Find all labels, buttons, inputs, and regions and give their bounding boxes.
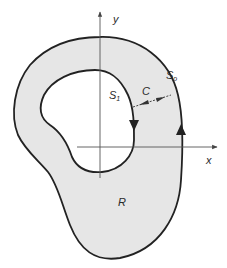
s1-label: S1 bbox=[109, 90, 120, 102]
c-text: C bbox=[142, 85, 150, 97]
x-label-text: x bbox=[206, 154, 212, 166]
y-label-text: y bbox=[113, 13, 119, 25]
region-diagram bbox=[0, 0, 227, 268]
y-axis-label: y bbox=[113, 14, 119, 25]
s1-subscript: 1 bbox=[116, 95, 120, 102]
diagram-canvas: y x So S1 C R bbox=[0, 0, 227, 268]
x-axis-label: x bbox=[206, 155, 212, 166]
s0-subscript: o bbox=[173, 75, 177, 82]
r-text: R bbox=[118, 196, 126, 208]
cut-c-label: C bbox=[142, 86, 150, 97]
s0-label: So bbox=[166, 70, 177, 82]
region-r-label: R bbox=[118, 197, 126, 208]
